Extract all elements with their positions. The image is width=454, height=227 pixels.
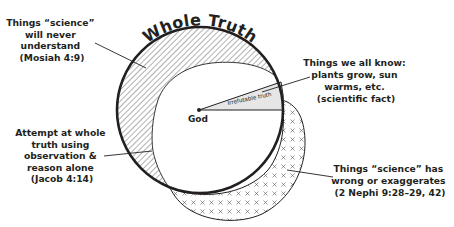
god-label: God — [188, 114, 208, 124]
label-all-know: Things we all know: plants grow, sun war… — [303, 57, 409, 104]
label-never-understand: Things “science” will never understand (… — [6, 17, 98, 63]
whole-truth-diagram: Irrefutable truth God Whole Truth Things… — [0, 0, 454, 227]
label-attempt: Attempt at whole truth using observation… — [15, 127, 109, 184]
label-science-wrong: Things “science” has wrong or exaggerate… — [331, 163, 448, 198]
god-point — [197, 108, 201, 112]
